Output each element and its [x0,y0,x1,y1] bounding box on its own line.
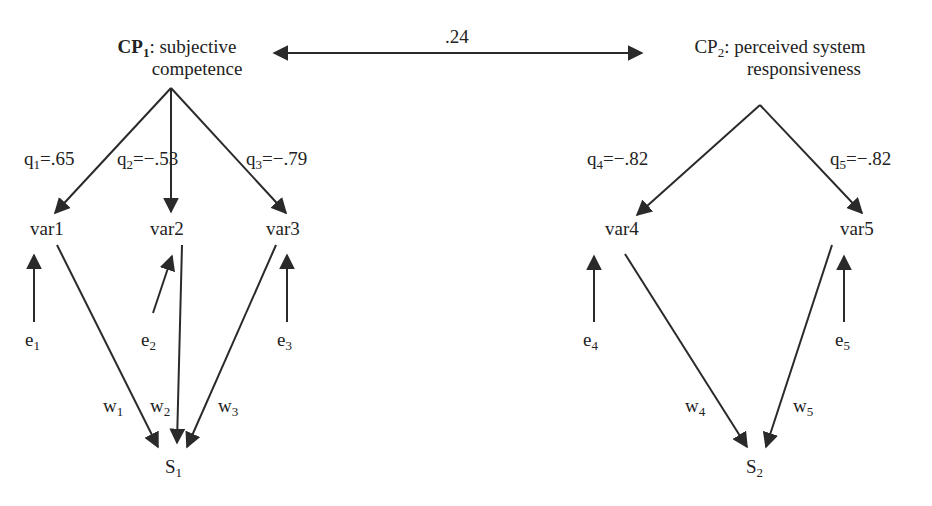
variable-var4: var4 [605,218,639,240]
weight-arrow-4 [625,254,747,447]
loading-label-2: q2=−.53 [117,148,178,170]
error-label-4: e4 [583,329,598,351]
score-s1: S1 [165,456,182,478]
error-label-3: e3 [277,329,292,351]
error-label-2: e2 [141,329,156,351]
weight-label-5: w5 [793,395,813,417]
construct-cp1-subtitle: competence [82,58,272,80]
variable-var1: var1 [30,218,64,240]
construct-cp2-label: CP2: perceived system responsiveness [660,36,900,80]
variable-var2: var2 [150,218,184,240]
construct-cp1-title: CP1: subjective [82,36,272,58]
loading-label-4: q4=−.82 [587,148,648,170]
construct-cp1-label: CP1: subjective competence [82,36,272,80]
weight-label-2: w2 [150,395,170,417]
construct-cp2-subtitle: responsiveness [660,58,900,80]
loading-label-3: q3=−.79 [246,148,307,170]
weight-label-1: w1 [103,395,123,417]
construct-cp2-title: CP2: perceived system [660,36,900,58]
loading-arrow-4 [637,105,760,215]
variable-var5: var5 [840,218,874,240]
weight-arrow-2 [177,245,182,443]
loading-label-1: q1=.65 [24,148,74,170]
error-label-5: e5 [835,329,850,351]
weight-label-3: w3 [218,395,238,417]
error-label-1: e1 [25,329,40,351]
score-s2: S2 [746,456,763,478]
weight-label-4: w4 [685,395,705,417]
variable-var3: var3 [266,218,300,240]
loading-label-5: q5=−.82 [830,148,891,170]
error-arrow-2 [153,256,172,313]
correlation-label: .24 [445,26,469,48]
